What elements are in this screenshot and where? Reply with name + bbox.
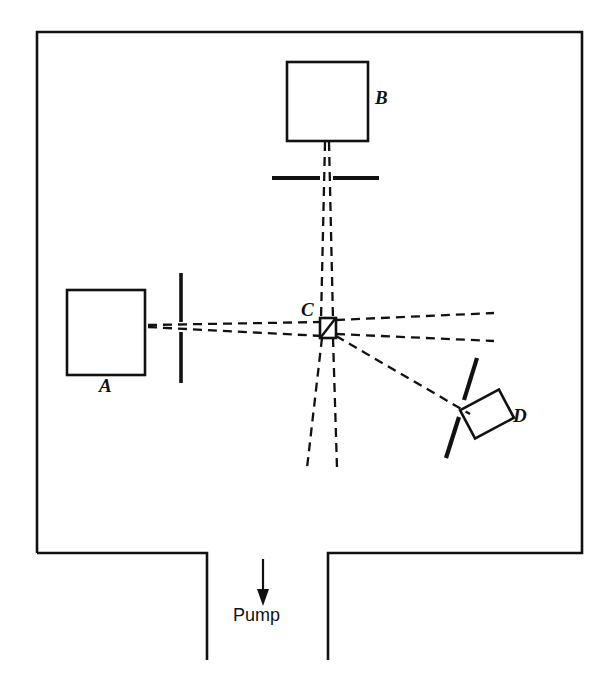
source-box-a — [67, 290, 145, 375]
label-component-c: C — [301, 300, 314, 319]
label-component-b: B — [375, 88, 388, 107]
diagram-svg — [0, 0, 608, 684]
slit-d-lower-bar — [446, 417, 459, 458]
label-component-a: A — [99, 376, 112, 395]
beam-c-down-left — [307, 338, 322, 468]
beam-a-to-c-upper — [148, 322, 322, 325]
chamber-outline — [37, 32, 582, 660]
source-box-b — [287, 62, 368, 141]
beam-a-to-c-lower — [148, 327, 322, 336]
label-component-d: D — [513, 406, 527, 425]
chamber-outline-pump-left — [37, 553, 207, 660]
pump-arrow-head — [257, 589, 269, 606]
slit-d-upper-bar — [464, 358, 477, 400]
beam-c-down-right — [333, 338, 337, 468]
beam-b-to-c-right — [329, 142, 333, 320]
beam-b-to-c-left — [321, 142, 325, 320]
label-pump: Pump — [233, 606, 280, 624]
figure-canvas: A B C D Pump — [0, 0, 608, 684]
beam-c-right-lower — [336, 334, 494, 341]
beam-c-to-d — [336, 336, 470, 414]
beam-c-right-upper — [336, 313, 494, 320]
